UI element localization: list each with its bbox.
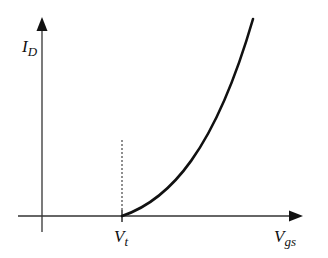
y-axis-arrowhead-icon <box>37 17 48 31</box>
y-axis-label: ID <box>21 37 38 59</box>
id-vgs-diagram: ID Vt Vgs <box>0 0 328 258</box>
drain-current-curve <box>122 19 253 216</box>
x-axis-label: Vgs <box>274 227 296 249</box>
x-axis-arrowhead-icon <box>289 211 303 222</box>
threshold-label: Vt <box>114 227 128 249</box>
